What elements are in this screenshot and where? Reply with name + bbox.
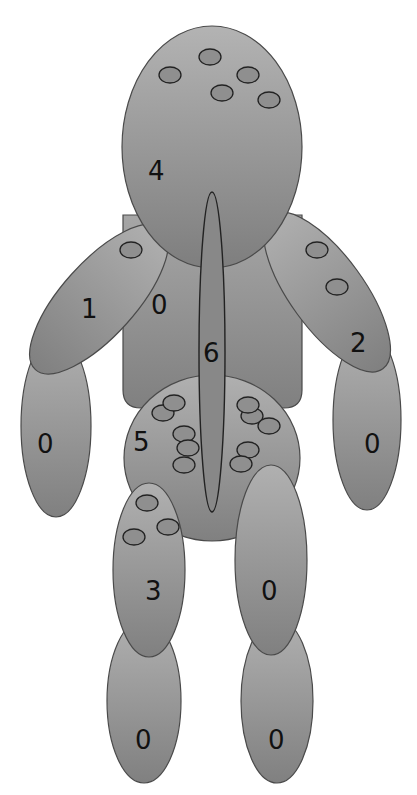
spot	[159, 67, 181, 83]
left-lower-leg-label: 0	[135, 725, 152, 755]
spot	[258, 418, 280, 434]
right-thigh: 0	[235, 465, 307, 655]
spot	[163, 395, 185, 411]
right-lower-leg-label: 0	[268, 725, 285, 755]
spot	[177, 440, 199, 456]
spot	[120, 242, 142, 258]
left-thigh: 3	[113, 483, 185, 657]
left-thigh-label: 3	[145, 576, 162, 606]
spot	[199, 49, 221, 65]
spot	[326, 279, 348, 295]
spot	[237, 67, 259, 83]
spot	[306, 242, 328, 258]
spot	[157, 519, 179, 535]
body-diagram: 0 0 0 0 0 1 2 4	[0, 0, 417, 795]
right-upper-arm-label: 2	[350, 328, 367, 358]
left-upper-arm-label: 1	[81, 294, 98, 324]
pelvis-label: 5	[133, 427, 150, 457]
right-thigh-label: 0	[261, 576, 278, 606]
spot	[123, 529, 145, 545]
spot	[211, 85, 233, 101]
spot	[258, 92, 280, 108]
spine-label: 6	[203, 338, 220, 368]
spot	[173, 426, 195, 442]
left-forearm-label: 0	[37, 429, 54, 459]
head-label: 4	[148, 156, 165, 186]
spot	[136, 495, 158, 511]
torso-label: 0	[151, 290, 168, 320]
spot	[230, 456, 252, 472]
spine: 6	[199, 192, 225, 512]
spot	[237, 397, 259, 413]
spot	[173, 457, 195, 473]
right-forearm-label: 0	[364, 429, 381, 459]
